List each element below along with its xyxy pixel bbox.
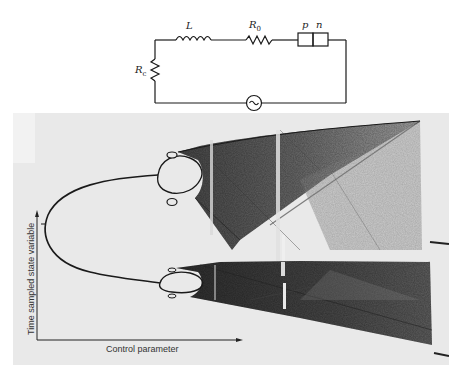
resistor-rc-label: Rc: [135, 64, 146, 78]
pn-label-p: p: [302, 19, 308, 30]
y-axis-label: Time sampled state variable: [26, 223, 36, 335]
x-axis-label: Control parameter: [106, 344, 179, 354]
resistor-rc-symbol: [151, 59, 159, 81]
inductor-label: L: [186, 20, 193, 31]
pn-label-n: n: [316, 19, 322, 30]
y-axis-arrow: [35, 210, 39, 217]
resistor-r0-symbol: [246, 36, 272, 44]
resistor-r0-label: R0: [249, 19, 261, 33]
bifurcation-diagram: [13, 113, 449, 365]
x-axis-arrow: [236, 338, 243, 342]
circuit-diagram: [0, 0, 465, 112]
inductor-symbol: [176, 37, 211, 41]
